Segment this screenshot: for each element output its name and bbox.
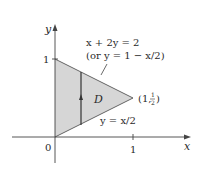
x-tick-label: 1: [130, 144, 136, 155]
label-pointer-line: [101, 64, 107, 75]
region-diagram: y x 0 1 1 D x + 2y = 2 (or y = 1 − x/2) …: [0, 0, 201, 171]
y-axis-arrow-icon: [53, 24, 58, 31]
apex-point-label: (1, 1 2 ): [138, 91, 160, 106]
origin-label: 0: [45, 142, 51, 153]
y-axis-label: y: [44, 23, 52, 36]
upper-boundary-equation: x + 2y = 2: [86, 37, 140, 48]
upper-boundary-alt-equation: (or y = 1 − x/2): [86, 50, 165, 61]
apex-frac-den: 2: [151, 99, 155, 106]
apex-frac-num: 1: [151, 91, 155, 98]
lower-boundary-equation: y = x/2: [99, 115, 136, 126]
x-axis-arrow-icon: [184, 135, 191, 140]
x-axis-label: x: [184, 140, 191, 153]
apex-label-suffix: ): [156, 93, 160, 104]
y-tick-label: 1: [43, 54, 49, 65]
region-label: D: [93, 93, 103, 106]
apex-label-prefix: (1,: [138, 93, 151, 104]
